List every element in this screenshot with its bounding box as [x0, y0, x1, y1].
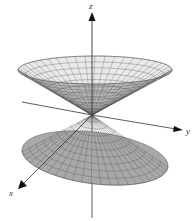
x-axis-label: x	[8, 188, 13, 198]
z-axis-label: z	[88, 1, 93, 11]
lower-cone-surface	[22, 115, 168, 185]
z-axis-arrowhead	[89, 12, 96, 21]
y-axis-arrowhead	[173, 126, 183, 132]
upper-cone-surface	[18, 56, 172, 115]
y-axis	[92, 115, 176, 129]
double-cone-figure: z y x	[0, 0, 196, 221]
y-axis-label: y	[185, 126, 190, 136]
